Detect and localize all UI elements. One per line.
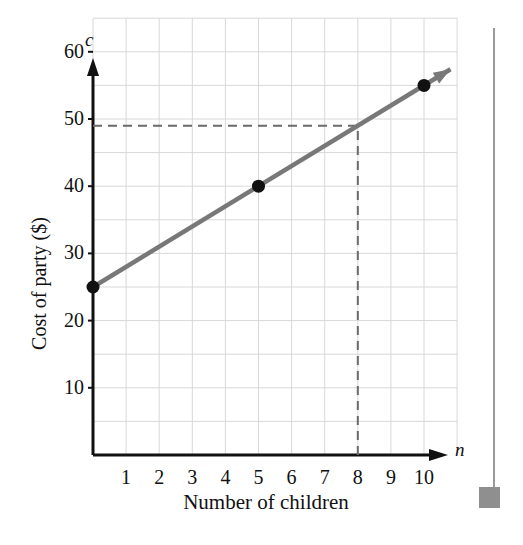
data-series-arrowhead [433,69,451,83]
x-axis-variable-label: n [455,440,465,459]
x-axis-tick-label: 5 [247,467,271,487]
data-point-marker [418,79,431,92]
data-series-line [93,69,450,287]
line-chart-figure: c n 102030405060 12345678910 Cost of par… [0,0,523,545]
y-axis-arrowhead [87,58,99,76]
x-axis-tick-label: 2 [147,467,171,487]
x-axis-tick-label: 9 [379,467,403,487]
x-axis-tick-label: 7 [313,467,337,487]
data-series-group [93,69,450,287]
x-axis-tick-label: 3 [180,467,204,487]
page-edge-rule [493,28,495,508]
x-axis-tick-label: 10 [412,467,436,487]
chart-canvas [0,0,523,545]
data-point-marker [87,281,100,294]
y-axis-title: Cost of party ($) [28,179,51,389]
y-axis-variable-label: c [85,30,93,49]
data-point-marker [252,180,265,193]
gridlines-group [93,18,457,455]
y-axis-tick-label: 60 [44,41,84,61]
y-axis-tick-label: 50 [44,108,84,128]
x-axis-tick-label: 4 [213,467,237,487]
x-axis-arrowhead [429,449,448,461]
page-corner-block [479,487,500,508]
x-axis-tick-label: 6 [280,467,304,487]
x-axis-title: Number of children [86,490,446,515]
x-axis-tick-label: 1 [114,467,138,487]
x-axis-tick-label: 8 [346,467,370,487]
